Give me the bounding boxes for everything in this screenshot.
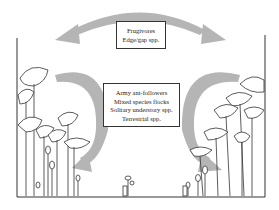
label-line: Mixed species flocks bbox=[104, 98, 179, 107]
center-seedlings bbox=[123, 176, 134, 196]
label-line: Solitary understory spp. bbox=[104, 106, 179, 115]
label-line: Edge/gap spp. bbox=[117, 36, 165, 45]
label-line: Frugivores bbox=[117, 27, 165, 36]
label-line: Army ant-followers bbox=[104, 89, 179, 98]
understory-label-box: Army ant-followers Mixed species flocks … bbox=[103, 83, 180, 127]
frugivores-label-box: Frugivores Edge/gap spp. bbox=[116, 21, 166, 49]
curved-arrow-right bbox=[182, 72, 240, 172]
label-line: Terrestrial spp. bbox=[104, 115, 179, 124]
trees-left bbox=[18, 67, 90, 196]
